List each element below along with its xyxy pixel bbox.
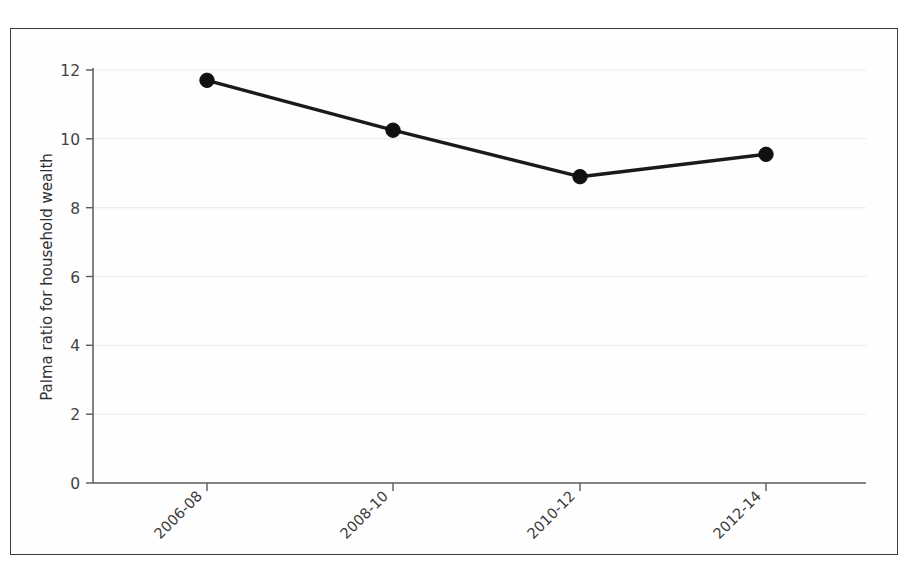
gridlines-horizontal xyxy=(93,70,866,414)
x-tick-label-0: 2006-08 xyxy=(151,488,205,542)
x-tick-marks xyxy=(207,483,766,491)
figure-container: 12 10 8 6 4 2 0 Palma ratio for househol… xyxy=(0,0,918,577)
x-tick-label-2: 2010-12 xyxy=(524,488,578,542)
y-tick-marks xyxy=(86,70,93,483)
series-markers xyxy=(200,73,773,184)
data-point xyxy=(759,147,773,161)
y-axis-title: Palma ratio for household wealth xyxy=(38,153,56,401)
line-chart: 12 10 8 6 4 2 0 Palma ratio for househol… xyxy=(0,0,918,577)
series-line-palma-ratio xyxy=(207,80,766,176)
y-tick-labels: 12 10 8 6 4 2 0 xyxy=(60,62,80,493)
x-tick-label-3: 2012-14 xyxy=(710,488,764,542)
y-tick-label-12: 12 xyxy=(60,62,80,80)
x-tick-labels: 2006-08 2008-10 2010-12 2012-14 xyxy=(151,488,764,542)
x-tick-label-1: 2008-10 xyxy=(337,488,391,542)
y-tick-label-6: 6 xyxy=(70,269,80,287)
data-point xyxy=(200,73,214,87)
data-series xyxy=(200,73,773,184)
y-tick-label-2: 2 xyxy=(70,406,80,424)
y-tick-label-8: 8 xyxy=(70,200,80,218)
y-tick-label-4: 4 xyxy=(70,337,80,355)
y-tick-label-10: 10 xyxy=(60,131,80,149)
y-tick-label-0: 0 xyxy=(70,475,80,493)
axes xyxy=(93,68,866,483)
data-point xyxy=(573,169,587,183)
data-point xyxy=(386,123,400,137)
